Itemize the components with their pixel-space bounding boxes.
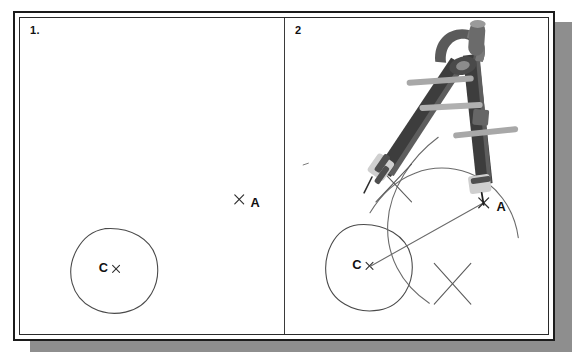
compass-left-leg bbox=[377, 58, 465, 177]
figure-root: 1. C A bbox=[0, 0, 579, 361]
panel-step-two: 2 C bbox=[285, 18, 548, 334]
drawing-compass-icon bbox=[364, 20, 518, 205]
label-point-c: C bbox=[352, 257, 361, 272]
figure-inner-frame: 1. C A bbox=[19, 17, 549, 335]
segment-c-to-a bbox=[370, 203, 484, 267]
compass-right-sleeve bbox=[472, 109, 489, 126]
panel-one-drawing: C A bbox=[20, 18, 284, 334]
circle-center-cross-mark bbox=[113, 265, 120, 272]
label-point-a: A bbox=[497, 199, 506, 214]
label-point-c: C bbox=[99, 260, 108, 275]
stray-pencil-mark bbox=[303, 163, 309, 165]
circle-c-outline bbox=[326, 224, 413, 310]
point-a-cross-mark bbox=[235, 195, 244, 204]
compass-needle-holder bbox=[468, 174, 492, 205]
figure-frame: 1. C A bbox=[13, 11, 555, 341]
panel-step-one: 1. C A bbox=[20, 18, 285, 334]
label-point-a: A bbox=[251, 195, 260, 210]
arc-intersection-cross-lower bbox=[434, 263, 471, 304]
panel-two-drawing: C bbox=[285, 18, 548, 334]
compass-top-knob-cap bbox=[470, 20, 486, 28]
